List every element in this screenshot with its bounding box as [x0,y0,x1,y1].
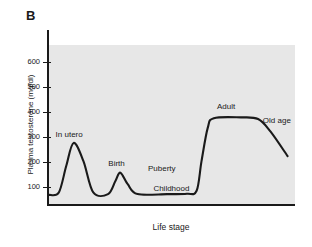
annotation-in-utero: In utero [56,130,83,139]
annotation-puberty: Puberty [148,164,176,173]
annotation-old-age: Old age [263,116,291,125]
annotation-childhood: Childhood [153,184,189,193]
annotation-birth: Birth [108,159,124,168]
annotation-adult: Adult [217,102,235,111]
figure-panel-b: B 600 500 400 300 200 100 Plasma testost… [0,0,312,247]
